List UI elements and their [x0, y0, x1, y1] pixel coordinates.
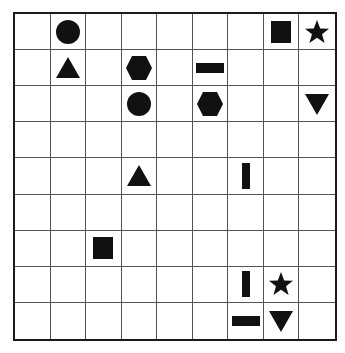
shape-grid-board — [13, 12, 337, 341]
grid-cell-r4-c2 — [86, 158, 122, 194]
grid-cell-r8-c6 — [228, 303, 264, 339]
grid-cell-r2-c0 — [15, 86, 51, 122]
grid-cell-r0-c5 — [193, 14, 229, 50]
circle-icon — [126, 91, 152, 117]
grid-cell-r5-c8 — [299, 195, 335, 231]
grid-cell-r5-c1 — [51, 195, 87, 231]
grid-cell-r4-c4 — [157, 158, 193, 194]
grid-cell-r7-c5 — [193, 267, 229, 303]
grid-cell-r1-c8 — [299, 50, 335, 86]
grid-cell-r7-c0 — [15, 267, 51, 303]
grid-cell-r5-c4 — [157, 195, 193, 231]
grid-cell-r7-c1 — [51, 267, 87, 303]
grid-cell-r3-c6 — [228, 122, 264, 158]
grid-cell-r6-c7 — [264, 231, 300, 267]
grid-cell-r3-c2 — [86, 122, 122, 158]
grid-cell-r3-c8 — [299, 122, 335, 158]
grid-cell-r8-c0 — [15, 303, 51, 339]
grid-cell-r0-c7 — [264, 14, 300, 50]
grid-cell-r3-c7 — [264, 122, 300, 158]
grid-cell-r1-c5 — [193, 50, 229, 86]
grid-cell-r5-c2 — [86, 195, 122, 231]
grid-cell-r0-c6 — [228, 14, 264, 50]
grid-cell-r4-c6 — [228, 158, 264, 194]
grid-cell-r6-c1 — [51, 231, 87, 267]
triangle-down-icon — [269, 310, 293, 332]
triangle-up-icon — [56, 57, 80, 79]
grid-cell-r8-c3 — [122, 303, 158, 339]
grid-cell-r6-c0 — [15, 231, 51, 267]
grid-cell-r4-c8 — [299, 158, 335, 194]
grid-cell-r4-c5 — [193, 158, 229, 194]
grid-cell-r2-c4 — [157, 86, 193, 122]
bar-horizontal-icon — [196, 63, 224, 73]
grid-cell-r5-c0 — [15, 195, 51, 231]
grid-cell-r7-c7 — [264, 267, 300, 303]
grid-cell-r4-c0 — [15, 158, 51, 194]
grid-cell-r3-c3 — [122, 122, 158, 158]
grid-cell-r4-c7 — [264, 158, 300, 194]
grid-cell-r2-c3 — [122, 86, 158, 122]
grid-cell-r2-c8 — [299, 86, 335, 122]
grid-cell-r5-c6 — [228, 195, 264, 231]
circle-icon — [55, 19, 81, 45]
grid-cell-r0-c8 — [299, 14, 335, 50]
grid-cell-r0-c1 — [51, 14, 87, 50]
grid-cell-r8-c2 — [86, 303, 122, 339]
grid-cell-r0-c3 — [122, 14, 158, 50]
grid-cell-r1-c6 — [228, 50, 264, 86]
hexagon-icon — [196, 91, 224, 117]
grid-cell-r6-c6 — [228, 231, 264, 267]
grid-cell-r1-c1 — [51, 50, 87, 86]
grid-cell-r2-c5 — [193, 86, 229, 122]
grid-cell-r1-c0 — [15, 50, 51, 86]
grid-cell-r1-c4 — [157, 50, 193, 86]
grid-cell-r6-c2 — [86, 231, 122, 267]
hexagon-icon — [125, 55, 153, 81]
grid-cell-r6-c5 — [193, 231, 229, 267]
grid-cell-r3-c4 — [157, 122, 193, 158]
grid-cell-r7-c6 — [228, 267, 264, 303]
triangle-down-icon — [305, 93, 329, 115]
bar-vertical-icon — [242, 271, 250, 297]
grid-cell-r1-c3 — [122, 50, 158, 86]
grid-cell-r8-c5 — [193, 303, 229, 339]
grid-cell-r8-c7 — [264, 303, 300, 339]
grid-cell-r6-c3 — [122, 231, 158, 267]
bar-horizontal-icon — [232, 316, 260, 326]
bar-vertical-icon — [242, 163, 250, 189]
grid-cell-r7-c3 — [122, 267, 158, 303]
grid-cell-r8-c8 — [299, 303, 335, 339]
grid-cell-r3-c5 — [193, 122, 229, 158]
grid-cell-r2-c1 — [51, 86, 87, 122]
triangle-up-icon — [127, 165, 151, 187]
grid-cell-r7-c2 — [86, 267, 122, 303]
grid-cell-r0-c2 — [86, 14, 122, 50]
grid-cell-r2-c6 — [228, 86, 264, 122]
grid-cell-r1-c7 — [264, 50, 300, 86]
grid-cell-r7-c4 — [157, 267, 193, 303]
grid-cell-r6-c8 — [299, 231, 335, 267]
grid-cell-r6-c4 — [157, 231, 193, 267]
grid-cell-r3-c1 — [51, 122, 87, 158]
grid-cell-r2-c2 — [86, 86, 122, 122]
square-icon — [271, 21, 291, 43]
grid-cell-r5-c3 — [122, 195, 158, 231]
star-icon — [304, 19, 330, 45]
grid-cell-r8-c1 — [51, 303, 87, 339]
square-icon — [93, 237, 113, 259]
star-icon — [268, 271, 294, 297]
grid-cell-r0-c4 — [157, 14, 193, 50]
grid-cell-r3-c0 — [15, 122, 51, 158]
grid-cell-r4-c3 — [122, 158, 158, 194]
grid-cell-r8-c4 — [157, 303, 193, 339]
grid-cell-r2-c7 — [264, 86, 300, 122]
grid-cell-r5-c5 — [193, 195, 229, 231]
grid-cell-r7-c8 — [299, 267, 335, 303]
grid-cell-r0-c0 — [15, 14, 51, 50]
grid-cell-r4-c1 — [51, 158, 87, 194]
grid-cell-r5-c7 — [264, 195, 300, 231]
grid-cell-r1-c2 — [86, 50, 122, 86]
